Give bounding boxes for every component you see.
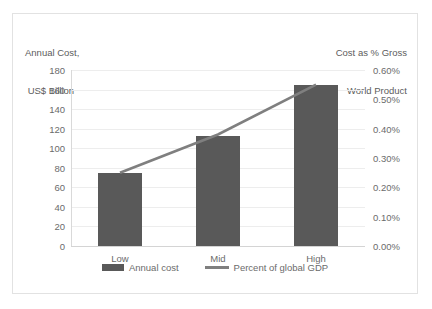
right-axis-title-line1: Cost as % Gross — [336, 47, 407, 60]
left-axis-tick-label: 60 — [41, 182, 65, 193]
plot-area: 020406080100120140160180 0.00%0.10%0.20%… — [71, 70, 365, 246]
line-swatch-icon — [205, 266, 229, 269]
legend-item-annual-cost: Annual cost — [102, 262, 179, 273]
left-axis-tick-label: 40 — [41, 201, 65, 212]
line-series — [71, 70, 365, 246]
left-axis-tick-label: 80 — [41, 162, 65, 173]
left-axis-tick-label: 160 — [41, 84, 65, 95]
right-axis-tick-label: 0.50% — [373, 94, 400, 105]
line-path — [120, 85, 316, 173]
left-axis-tick-label: 180 — [41, 65, 65, 76]
legend-label-percent-gdp: Percent of global GDP — [234, 262, 329, 273]
right-axis-tick-label: 0.20% — [373, 182, 400, 193]
legend-item-percent-gdp: Percent of global GDP — [205, 262, 329, 273]
gridline — [71, 246, 365, 247]
left-axis-tick-label: 20 — [41, 221, 65, 232]
left-axis-title-line1: Annual Cost, — [25, 47, 79, 60]
right-axis-tick-label: 0.40% — [373, 123, 400, 134]
legend-label-annual-cost: Annual cost — [129, 262, 179, 273]
right-axis-tick-label: 0.60% — [373, 65, 400, 76]
chart-container: Annual Cost, US$ Billion Cost as % Gross… — [12, 13, 418, 294]
left-axis-tick-label: 0 — [41, 241, 65, 252]
right-axis-tick-label: 0.00% — [373, 241, 400, 252]
left-axis-tick-label: 100 — [41, 143, 65, 154]
left-axis-tick-label: 140 — [41, 104, 65, 115]
left-axis-tick-label: 120 — [41, 123, 65, 134]
right-axis-tick-label: 0.30% — [373, 153, 400, 164]
right-axis-tick-label: 0.10% — [373, 211, 400, 222]
chart-legend: Annual cost Percent of global GDP — [13, 262, 417, 273]
bar-swatch-icon — [102, 264, 124, 271]
